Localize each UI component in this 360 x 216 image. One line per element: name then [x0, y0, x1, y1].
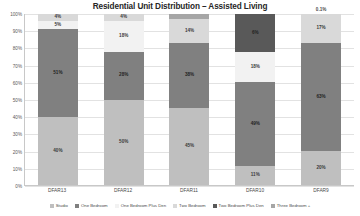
legend-item[interactable]: Studio — [50, 203, 68, 208]
x-axis-label: DFAR10 — [224, 188, 287, 193]
gridline — [25, 186, 354, 187]
x-axis-labels: DFAR13DFAR12DFAR11DFAR10DFAR9 — [24, 188, 354, 198]
bar-segment[interactable]: 18% — [235, 52, 275, 83]
legend-item[interactable]: Two Bedroom — [173, 203, 206, 208]
y-axis-tick-label: 60% — [13, 80, 22, 85]
bar-slot[interactable]: 0.1%17%63%20%0.1% — [290, 14, 353, 185]
y-axis-tick-label: 10% — [13, 166, 22, 171]
legend-swatch-icon — [213, 204, 217, 208]
y-axis-tick-label: 70% — [13, 63, 22, 68]
bar-segment-label: 6% — [252, 31, 259, 36]
bar-segment-label: 28% — [119, 73, 128, 78]
legend-item[interactable]: Three Bedroom + — [271, 203, 311, 208]
bar-segment-label: 45% — [185, 144, 194, 149]
bar-segment[interactable]: 40% — [38, 117, 78, 185]
bar-segment[interactable]: 6% — [235, 14, 275, 52]
legend-swatch-icon — [115, 204, 119, 208]
bar-segment-label: 40% — [53, 149, 62, 154]
bar-segment-label: 50% — [119, 140, 128, 145]
bar-segment[interactable]: 5% — [38, 21, 78, 30]
bar-segment[interactable]: 14% — [169, 19, 209, 43]
legend-label: Two Bedroom — [179, 203, 206, 208]
bar-outside-label: 0.1% — [301, 7, 341, 12]
bar-segment[interactable]: 45% — [169, 108, 209, 185]
y-axis-tick-label: 0% — [15, 184, 22, 189]
bar-segment-label: 18% — [119, 34, 128, 39]
x-axis-label: DFAR13 — [26, 188, 89, 193]
bars-layer: 4%5%51%40%4%18%28%50%14%38%45%6%18%49%11… — [25, 14, 354, 185]
bar-segment-label: 51% — [53, 71, 62, 76]
bar-segment[interactable]: 11% — [235, 166, 275, 185]
bar-segment-label: 20% — [316, 166, 325, 171]
bar-segment[interactable]: 20% — [301, 151, 341, 185]
bar-segment-label: 14% — [185, 29, 194, 34]
stacked-bar[interactable]: 4%5%51%40% — [38, 14, 78, 185]
legend-label: Three Bedroom + — [277, 203, 311, 208]
bar-segment[interactable]: 18% — [104, 21, 144, 52]
stacked-bar[interactable]: 0.1%17%63%20%0.1% — [301, 14, 341, 185]
stacked-bar[interactable]: 6%18%49%11% — [235, 14, 275, 185]
legend-item[interactable]: One Bedroom — [75, 203, 108, 208]
legend-label: Two Bedroom Plus Den — [219, 203, 264, 208]
bar-slot[interactable]: 4%18%28%50% — [92, 14, 155, 185]
bar-slot[interactable]: 4%5%51%40% — [27, 14, 90, 185]
y-axis-tick-label: 50% — [13, 98, 22, 103]
legend-swatch-icon — [75, 204, 79, 208]
bar-slot[interactable]: 14%38%45% — [158, 14, 221, 185]
plot-area: 0%10%20%30%40%50%60%70%80%90%100% 4%5%51… — [24, 14, 354, 186]
bar-segment[interactable]: 4% — [104, 14, 144, 21]
bar-segment-label: 63% — [316, 95, 325, 100]
bar-segment-label: 4% — [55, 15, 62, 20]
y-axis-tick-label: 30% — [13, 132, 22, 137]
legend-label: Studio — [56, 203, 68, 208]
bar-segment[interactable]: 38% — [169, 43, 209, 108]
x-axis-label: DFAR9 — [290, 188, 353, 193]
bar-segment[interactable]: 49% — [235, 82, 275, 166]
legend-item[interactable]: One Bedroom Plus Den — [115, 203, 166, 208]
chart-legend: StudioOne BedroomOne Bedroom Plus DenTwo… — [0, 203, 360, 208]
bar-segment[interactable]: 28% — [104, 52, 144, 100]
y-axis-tick-label: 100% — [10, 12, 22, 17]
bar-segment[interactable]: 17% — [301, 14, 341, 43]
bar-segment-label: 18% — [251, 65, 260, 70]
legend-swatch-icon — [173, 204, 177, 208]
y-axis-tick-label: 90% — [13, 29, 22, 34]
bar-segment[interactable]: 50% — [104, 100, 144, 186]
bar-segment[interactable]: 63% — [301, 43, 341, 151]
x-axis-label: DFAR11 — [158, 188, 221, 193]
legend-swatch-icon — [50, 204, 54, 208]
bar-segment-label: 38% — [185, 73, 194, 78]
y-axis-tick-label: 20% — [13, 149, 22, 154]
y-axis-tick-label: 80% — [13, 46, 22, 51]
legend-label: One Bedroom Plus Den — [121, 203, 166, 208]
bar-segment-label: 49% — [251, 122, 260, 127]
bar-segment[interactable]: 51% — [38, 29, 78, 116]
x-axis-label: DFAR12 — [92, 188, 155, 193]
y-axis-tick-label: 40% — [13, 115, 22, 120]
bar-segment[interactable]: 4% — [38, 14, 78, 21]
chart-container: Residential Unit Distribution – Assisted… — [0, 0, 360, 216]
bar-segment-label: 4% — [120, 15, 127, 20]
bar-segment-label: 11% — [251, 173, 260, 178]
stacked-bar[interactable]: 4%18%28%50% — [104, 14, 144, 185]
bar-segment-label: 17% — [316, 26, 325, 31]
stacked-bar[interactable]: 14%38%45% — [169, 14, 209, 185]
bar-slot[interactable]: 6%18%49%11% — [224, 14, 287, 185]
bar-segment-label: 5% — [55, 23, 62, 28]
legend-swatch-icon — [271, 204, 275, 208]
legend-label: One Bedroom — [81, 203, 108, 208]
legend-item[interactable]: Two Bedroom Plus Den — [213, 203, 264, 208]
